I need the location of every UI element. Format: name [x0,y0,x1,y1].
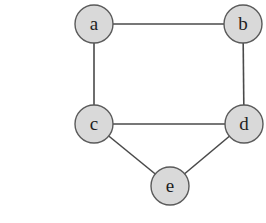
node-a: a [75,5,113,43]
node-b: b [224,5,262,43]
node-label: c [90,113,98,134]
node-label: e [166,175,174,196]
nodes-group: abcde [75,5,263,205]
node-label: d [239,113,249,134]
graph-diagram: abcde [0,0,266,223]
node-label: b [238,13,248,34]
node-c: c [75,105,113,143]
edges-group [94,24,244,186]
node-e: e [151,167,189,205]
node-d: d [225,105,263,143]
node-label: a [90,13,99,34]
